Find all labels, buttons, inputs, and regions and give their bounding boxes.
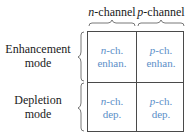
column-header-n-channel: n-channel (87, 5, 137, 19)
cell-line1: p-ch. (150, 44, 172, 57)
column-header-suffix: -channel (94, 5, 135, 19)
row-label-line1: Depletion (0, 93, 76, 107)
cell-line2: dep. (103, 108, 122, 121)
cell-line2: dep. (152, 108, 171, 121)
cell-suffix: -ch. (155, 95, 172, 107)
column-header-suffix: -channel (143, 5, 184, 19)
brace-left-enhancement-icon (78, 32, 84, 81)
brace-top-n-icon (89, 20, 135, 26)
cell-line2: enhan. (97, 57, 126, 70)
cell-line1: n-ch. (101, 95, 123, 108)
cell-line1: n-ch. (101, 44, 123, 57)
cell-suffix: -ch. (106, 44, 123, 56)
column-header-p-channel: p-channel (136, 5, 186, 19)
cell-p-channel-depletion: p-ch. dep. (137, 83, 185, 133)
cell-n-channel-enhancement: n-ch. enhan. (88, 32, 136, 82)
cell-suffix: -ch. (155, 44, 172, 56)
row-label-line2: mode (0, 56, 76, 70)
cell-p-channel-enhancement: p-ch. enhan. (137, 32, 185, 82)
brace-top-p-icon (138, 20, 184, 26)
row-label-line2: mode (0, 107, 76, 121)
brace-left-depletion-icon (78, 83, 84, 131)
cell-n-channel-depletion: n-ch. dep. (88, 83, 136, 133)
mosfet-type-grid: n-ch. enhan. p-ch. enhan. n-ch. dep. p-c… (87, 31, 184, 132)
row-label-depletion-mode: Depletion mode (0, 93, 76, 121)
cell-line2: enhan. (146, 57, 175, 70)
row-label-enhancement-mode: Enhancement mode (0, 42, 76, 70)
cell-suffix: -ch. (106, 95, 123, 107)
row-label-line1: Enhancement (0, 42, 76, 56)
cell-line1: p-ch. (150, 95, 172, 108)
